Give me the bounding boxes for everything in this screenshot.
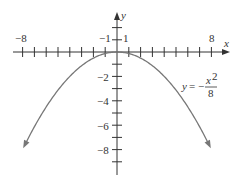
- x-axis-label: x: [223, 37, 229, 49]
- svg-text:2: 2: [212, 70, 218, 82]
- equation-label: y= − x 2 8: [181, 70, 218, 99]
- y-tick-label-neg6: −6: [97, 120, 109, 132]
- x-tick-label-1: 1: [123, 32, 129, 44]
- x-axis-arrow-icon: [222, 49, 230, 55]
- svg-text:−: −: [198, 80, 204, 92]
- y-axis-arrow-icon: [114, 12, 120, 20]
- x-tick-label-8: 8: [209, 32, 215, 44]
- curve-arrow-left-icon: [23, 140, 29, 148]
- svg-text:y=: y=: [181, 80, 195, 92]
- y-tick-label-neg4: −4: [97, 95, 109, 107]
- curve-arrow-right-icon: [205, 140, 211, 148]
- svg-text:x: x: [205, 74, 211, 86]
- y-tick-label-neg8: −8: [97, 144, 109, 156]
- parabola-chart: x y −8 −1 1 8 −2 −4 −6 −8 y= − x 2 8: [0, 0, 241, 189]
- svg-text:8: 8: [208, 87, 214, 99]
- y-axis-label: y: [120, 9, 126, 21]
- x-tick-label-neg8: −8: [15, 32, 27, 44]
- x-tick-label-neg1: −1: [99, 32, 111, 44]
- y-tick-label-neg2: −2: [97, 71, 109, 83]
